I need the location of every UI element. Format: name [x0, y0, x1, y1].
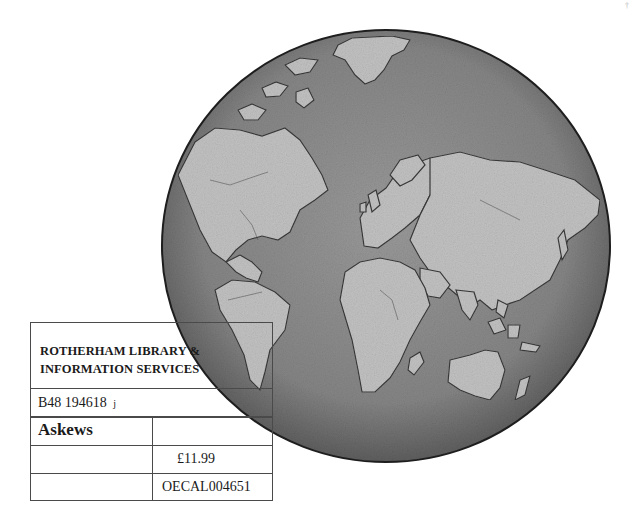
- library-catalog-label: ROTHERHAM LIBRARY & INFORMATION SERVICES…: [30, 322, 273, 501]
- label-border-right: [272, 322, 273, 501]
- price-value: £11.99: [177, 450, 215, 468]
- barcode-number: B48 194618 j: [38, 394, 116, 413]
- corner-mark: †: [625, 2, 631, 10]
- library-name-line-1: ROTHERHAM LIBRARY &: [40, 344, 200, 358]
- row-divider: [30, 388, 273, 389]
- column-divider: [152, 417, 153, 501]
- supplier-name: Askews: [38, 421, 93, 439]
- label-border-top: [30, 322, 273, 323]
- library-name-line-2: INFORMATION SERVICES: [40, 362, 199, 376]
- barcode-mark: j: [113, 398, 116, 409]
- label-border-left: [30, 322, 31, 501]
- barcode-value: B48 194618: [38, 395, 107, 410]
- reference-code: OECAL004651: [162, 478, 251, 496]
